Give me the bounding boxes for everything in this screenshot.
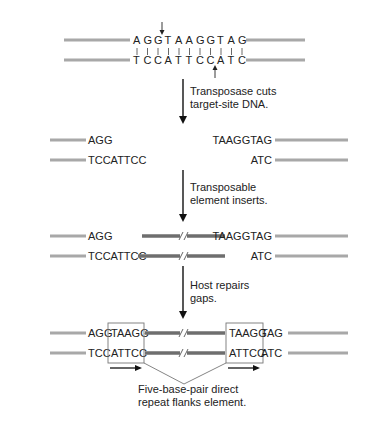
- base: T: [186, 54, 193, 66]
- right-bottom-repeat: ATTCC: [229, 347, 265, 359]
- left-bottom-sequence: TCCATTCC: [88, 250, 147, 262]
- base: G: [238, 34, 247, 46]
- step-label: target-site DNA.: [190, 98, 268, 110]
- base: G: [207, 34, 216, 46]
- stage-cut-dna: AGG TCCATTCC TAAGGTAG ATC: [50, 134, 348, 166]
- step-label: Transposase cuts: [190, 85, 277, 97]
- caption-pointer: [144, 363, 226, 384]
- left-top-plain: AGG: [88, 327, 112, 339]
- base: A: [228, 34, 236, 46]
- base: T: [133, 54, 140, 66]
- step-label: Transposable: [190, 181, 256, 193]
- base: A: [186, 34, 194, 46]
- base: A: [133, 34, 141, 46]
- base: T: [175, 54, 182, 66]
- base: A: [175, 34, 183, 46]
- base: G: [154, 34, 163, 46]
- bottom-strand-sequence: T C C A T T C C A T C: [133, 54, 246, 66]
- base: T: [165, 34, 172, 46]
- right-top-plain: TAG: [261, 327, 283, 339]
- base: C: [154, 54, 162, 66]
- transposable-element: [145, 329, 225, 357]
- base: T: [217, 34, 224, 46]
- right-bottom-plain: ATC: [261, 347, 282, 359]
- step-label: Host repairs: [190, 279, 250, 291]
- left-top-sequence: AGG: [88, 134, 112, 146]
- left-top-sequence: AGG: [88, 230, 112, 242]
- step-arrow-2: Transposable element inserts.: [183, 170, 268, 218]
- base: A: [217, 54, 225, 66]
- base: C: [144, 54, 152, 66]
- step-label: element inserts.: [190, 194, 268, 206]
- cut-site-arrow-bottom: [213, 65, 218, 78]
- caption-line-2: repeat flanks element.: [138, 396, 246, 408]
- left-top-repeat: TAAGG: [111, 327, 149, 339]
- stage-repaired: AGG TAAGG TCC ATTCC TAAGG TAG ATTCC ATC: [50, 323, 348, 408]
- left-bottom-sequence: TCCATTCC: [88, 154, 147, 166]
- right-bottom-sequence: ATC: [251, 250, 272, 262]
- caption-line-1: Five-base-pair direct: [138, 383, 238, 395]
- direct-repeat-arrow-right: [228, 365, 260, 371]
- step-label: gaps.: [190, 292, 217, 304]
- base: T: [228, 54, 235, 66]
- left-bottom-plain: TCC: [88, 347, 111, 359]
- right-top-sequence: TAAGGTAG: [213, 134, 273, 146]
- base: C: [196, 54, 204, 66]
- base: A: [165, 54, 173, 66]
- base: G: [144, 34, 153, 46]
- step-arrow-3: Host repairs gaps.: [183, 266, 250, 315]
- base: G: [196, 34, 205, 46]
- stage-element-inserted: AGG TCCATTCC TAAGGTAG ATC: [50, 230, 348, 262]
- left-bottom-repeat: ATTCC: [111, 347, 147, 359]
- right-top-sequence: TAAGGTAG: [213, 230, 273, 242]
- stage-target-site: A G G T A A G G T A G T C: [64, 22, 305, 78]
- top-strand-sequence: A G G T A A G G T A G: [133, 34, 247, 46]
- base: C: [207, 54, 215, 66]
- direct-repeat-arrow-left: [110, 365, 142, 371]
- transposition-diagram: A G G T A A G G T A G T C: [0, 0, 369, 425]
- base: C: [238, 54, 246, 66]
- right-bottom-sequence: ATC: [251, 154, 272, 166]
- step-arrow-1: Transposase cuts target-site DNA.: [183, 79, 277, 120]
